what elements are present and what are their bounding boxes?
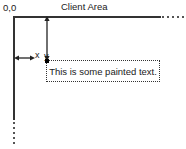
y-axis-line [13, 16, 15, 120]
x-offset-label: x [35, 51, 40, 60]
painted-text-anchor-point-icon [45, 59, 49, 63]
client-area-title: Client Area [61, 2, 107, 12]
x-offset-double-arrow-icon [14, 52, 35, 64]
origin-label: 0,0 [3, 3, 16, 13]
x-axis-line [13, 16, 161, 18]
painted-text-bounding-box: This is some painted text. [46, 60, 160, 82]
client-area-diagram: 0,0 Client Area x y This is some painted… [0, 0, 186, 149]
painted-text-label: This is some painted text. [49, 66, 157, 77]
y-axis-continuation-dots-icon [13, 122, 15, 144]
x-axis-continuation-dots-icon [162, 16, 184, 18]
